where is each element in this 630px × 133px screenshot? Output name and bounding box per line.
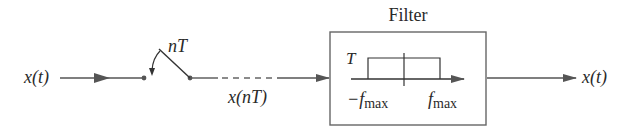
input-line — [60, 73, 144, 83]
sampler-label: nT — [168, 36, 189, 56]
switch-motion-arrow-icon — [152, 51, 160, 70]
sampling-reconstruction-diagram: x(t) nT x(nT) Filter T −fmax fmax x(t) — [0, 0, 630, 133]
switch-left-terminal — [142, 76, 147, 81]
filter-gain-label: T — [346, 49, 357, 68]
input-arrow-icon — [94, 73, 110, 83]
filter-title: Filter — [389, 5, 428, 25]
sampled-signal-label: x(nT) — [227, 87, 267, 108]
input-signal-label: x(t) — [23, 67, 49, 88]
output-signal-label: x(t) — [581, 67, 607, 88]
